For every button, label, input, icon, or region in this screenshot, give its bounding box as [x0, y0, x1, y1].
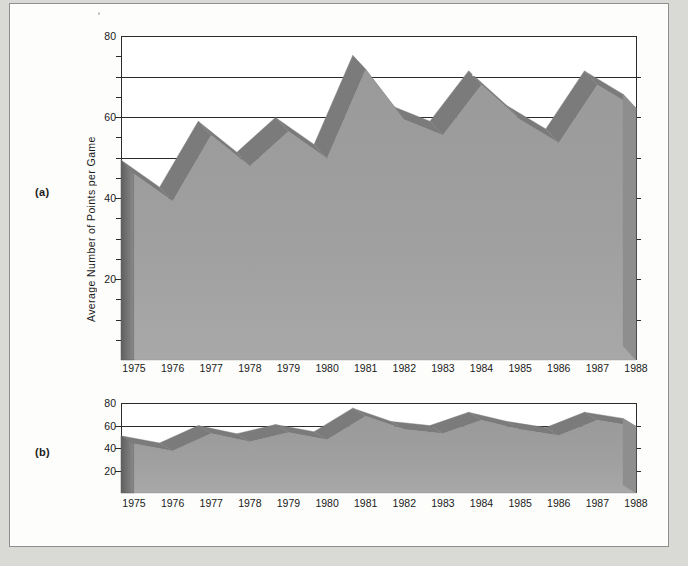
x-tick-label-1983: 1983 [431, 497, 454, 509]
y-tick-label-b-20: 20 [88, 465, 116, 477]
y-tick-label-b-80: 80 [88, 397, 116, 409]
x-tick-label-1988: 1988 [624, 497, 647, 509]
plot-frame-a [121, 36, 637, 360]
x-tick-label-1980: 1980 [315, 497, 338, 509]
x-tick-label-1977: 1977 [200, 497, 223, 509]
area-series-b [121, 403, 637, 493]
y-tick-label-a-20: 20 [88, 273, 116, 285]
figure-page: (a) Average Number of Points per Game 80… [9, 3, 669, 547]
x-tick-label-1986: 1986 [547, 497, 570, 509]
y-tick-label-a-80: 80 [88, 30, 116, 42]
x-tick-label-1982: 1982 [393, 497, 416, 509]
x-tick-label-1975: 1975 [122, 497, 145, 509]
x-tick-label-1980: 1980 [315, 362, 338, 374]
x-tick-label-1981: 1981 [354, 497, 377, 509]
x-tick-label-1983: 1983 [431, 362, 454, 374]
x-tick-label-1977: 1977 [200, 362, 223, 374]
panel-b: (b) 80 60 40 20 197519761977197819791980… [10, 384, 670, 544]
y-tick-label-b-60: 60 [88, 420, 116, 432]
x-tick-label-1976: 1976 [161, 497, 184, 509]
y-tick-label-b-40: 40 [88, 442, 116, 454]
x-tick-label-1988: 1988 [624, 362, 647, 374]
x-tick-label-1984: 1984 [470, 497, 493, 509]
plot-area-b: 80 60 40 20 1975197619771978197919801981… [10, 384, 670, 544]
x-tick-label-1984: 1984 [470, 362, 493, 374]
x-tick-label-1985: 1985 [508, 497, 531, 509]
x-tick-label-1985: 1985 [508, 362, 531, 374]
x-tick-label-1975: 1975 [122, 362, 145, 374]
x-tick-label-1982: 1982 [393, 362, 416, 374]
x-tick-label-1987: 1987 [586, 362, 609, 374]
x-tick-label-1978: 1978 [238, 362, 261, 374]
y-tick-label-a-60: 60 [88, 111, 116, 123]
panel-a: (a) Average Number of Points per Game 80… [10, 4, 670, 376]
x-tick-label-1978: 1978 [238, 497, 261, 509]
x-tick-label-1986: 1986 [547, 362, 570, 374]
x-tick-label-1981: 1981 [354, 362, 377, 374]
x-tick-label-1979: 1979 [277, 497, 300, 509]
x-tick-label-1987: 1987 [586, 497, 609, 509]
area-series-a [121, 36, 637, 360]
x-tick-label-1976: 1976 [161, 362, 184, 374]
y-tick-label-a-40: 40 [88, 192, 116, 204]
plot-area-a: 80 60 40 20 [10, 4, 670, 376]
plot-frame-b [121, 403, 637, 493]
x-tick-label-1979: 1979 [277, 362, 300, 374]
